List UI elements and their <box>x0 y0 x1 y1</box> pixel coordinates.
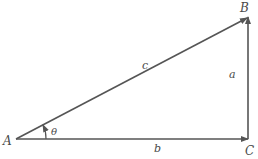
vertex-label-b: B <box>239 1 249 15</box>
vertex-label-c: C <box>245 144 254 158</box>
angle-theta-arc <box>43 125 46 139</box>
side-label-a: a <box>229 68 236 81</box>
side-label-b: b <box>154 142 161 155</box>
side-label-c: c <box>142 59 148 72</box>
side-c-vector <box>16 18 247 139</box>
right-triangle-diagram: A B C a b c θ <box>0 0 258 159</box>
angle-label-theta: θ <box>51 126 57 137</box>
vertex-label-a: A <box>2 134 12 148</box>
